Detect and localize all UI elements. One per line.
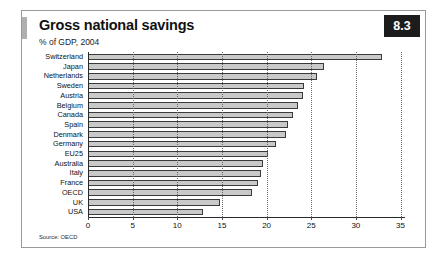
status-badge: 8.3 (384, 15, 420, 37)
x-axis-tick-label: 20 (262, 221, 271, 230)
chart-bar-row: Italy (22, 168, 427, 178)
chart-bar-row: Austria (22, 91, 427, 101)
bar (88, 112, 293, 119)
chart-source: Source: OECD (39, 234, 77, 240)
gridline (267, 52, 268, 217)
bar (88, 83, 304, 90)
category-label: Germany (22, 139, 83, 149)
bar (88, 131, 286, 138)
x-axis-tick (133, 217, 134, 220)
page-title: Gross national savings (39, 17, 194, 33)
x-axis-tick-label: 5 (130, 221, 134, 230)
category-label: UK (22, 198, 83, 208)
gridline (177, 52, 178, 217)
category-label: Netherlands (22, 71, 83, 81)
x-axis-tick (177, 217, 178, 220)
x-axis-tick-label: 10 (173, 221, 182, 230)
category-label: Belgium (22, 101, 83, 111)
category-label: France (22, 178, 83, 188)
chart-bar-row: Australia (22, 159, 427, 169)
x-axis-tick-label: 0 (86, 221, 90, 230)
category-label: USA (22, 207, 83, 217)
chart-bar-row: Spain (22, 120, 427, 130)
x-axis-tick (222, 217, 223, 220)
category-label: Italy (22, 168, 83, 178)
chart-bar-row: Sweden (22, 81, 427, 91)
chart-bar-row: Germany (22, 139, 427, 149)
x-axis-tick-label: 15 (217, 221, 226, 230)
chart-bar-row: EU25 (22, 149, 427, 159)
y-axis-line (88, 52, 89, 217)
bar (88, 92, 303, 99)
chart-bar-row: Canada (22, 110, 427, 120)
gridline (356, 52, 357, 217)
gridline (222, 52, 223, 217)
gridline (311, 52, 312, 217)
chart-bar-row: Belgium (22, 101, 427, 111)
title-accent-bar (22, 17, 27, 39)
x-axis-tick (401, 217, 402, 220)
category-label: Sweden (22, 81, 83, 91)
chart-bar-row: Denmark (22, 130, 427, 140)
x-axis-tick-label: 30 (351, 221, 360, 230)
category-label: Australia (22, 159, 83, 169)
x-axis-tick (311, 217, 312, 220)
chart-bar-row: OECD (22, 188, 427, 198)
bar (88, 73, 317, 80)
chart-subtitle: % of GDP, 2004 (39, 37, 99, 47)
x-axis-line (88, 217, 405, 218)
chart-bar-row: UK (22, 198, 427, 208)
bar (88, 209, 203, 216)
category-label: Austria (22, 91, 83, 101)
chart-bar-row: France (22, 178, 427, 188)
category-label: Canada (22, 110, 83, 120)
chart-card: Gross national savings % of GDP, 2004 8.… (21, 10, 426, 248)
chart-plot-area: SwitzerlandJapanNetherlandsSwedenAustria… (22, 52, 427, 217)
chart-bar-row: USA (22, 207, 427, 217)
bar (88, 141, 276, 148)
gridline (401, 52, 402, 217)
x-axis-tick (267, 217, 268, 220)
category-label: Denmark (22, 130, 83, 140)
category-label: EU25 (22, 149, 83, 159)
bar (88, 180, 258, 187)
category-label: Spain (22, 120, 83, 130)
x-axis-tick-label: 25 (307, 221, 316, 230)
bar (88, 170, 261, 177)
bar (88, 160, 263, 167)
x-axis-tick-label: 35 (396, 221, 405, 230)
category-label: Japan (22, 62, 83, 72)
category-label: OECD (22, 188, 83, 198)
bar (88, 199, 220, 206)
x-axis-tick (356, 217, 357, 220)
chart-bar-row: Netherlands (22, 71, 427, 81)
bar (88, 189, 252, 196)
bar (88, 63, 324, 70)
bar (88, 121, 288, 128)
chart-bar-row: Switzerland (22, 52, 427, 62)
chart-bar-row: Japan (22, 62, 427, 72)
gridline (133, 52, 134, 217)
category-label: Switzerland (22, 52, 83, 62)
x-axis-tick (88, 217, 89, 220)
